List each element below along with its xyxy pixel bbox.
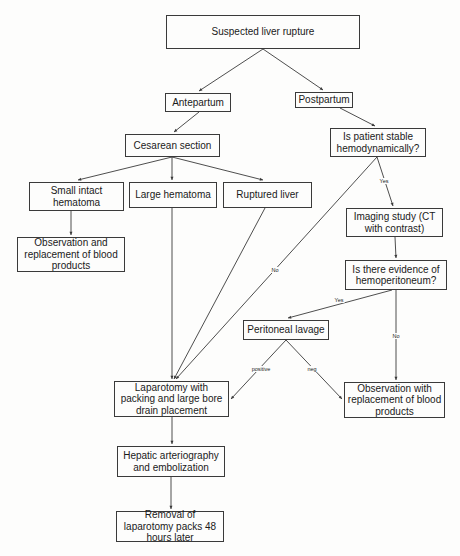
flowchart-canvas: Suspected liver rupture Antepartum Postp… — [0, 0, 460, 556]
node-antepartum: Antepartum — [165, 93, 231, 112]
arrowhead-icon — [69, 232, 72, 235]
node-laparotomy: Laparotomy with packing and large bore d… — [114, 381, 229, 417]
node-removal-packs: Removal of laparotomy packs 48 hours lat… — [116, 511, 224, 542]
edge-label-lavage-neg: neg — [306, 366, 317, 372]
node-cesarean-section: Cesarean section — [125, 134, 220, 157]
node-hepatic-arteriography: Hepatic arteriography and embolization — [117, 446, 225, 477]
node-hemoperitoneum: Is there evidence of hemoperitoneum? — [345, 260, 447, 290]
edge-antepartum-cesarean — [174, 112, 199, 132]
edge-cesarean-ruptured — [172, 157, 263, 180]
edge-label-hemo-no: No — [391, 333, 400, 339]
node-observation-right: Observation with replacement of blood pr… — [344, 382, 445, 418]
edge-imaging-hemo — [395, 237, 396, 258]
node-postpartum: Postpartum — [295, 92, 353, 108]
edge-suspected-postpartum — [263, 49, 323, 90]
arrowhead-icon — [170, 177, 173, 180]
node-ruptured-liver: Ruptured liver — [223, 182, 312, 208]
node-large-hematoma: Large hematoma — [129, 182, 217, 208]
edge-label-lavage-positive: positive — [251, 366, 272, 372]
edge-hemo-lavage — [288, 290, 392, 318]
arrowhead-icon — [394, 377, 397, 380]
edge-ruptured-laparotomy — [174, 208, 265, 379]
node-small-intact-hematoma: Small intact hematoma — [29, 182, 124, 211]
edge-cesarean-small — [78, 157, 172, 180]
arrowhead-icon — [394, 255, 397, 258]
node-is-patient-stable: Is patient stable hemodynamically? — [330, 128, 426, 157]
edge-label-hemo-yes: Yes — [334, 297, 345, 303]
edge-postpartum-stable — [340, 108, 375, 126]
node-imaging-study: Imaging study (CT with contrast) — [346, 208, 443, 237]
node-observation-left: Observation and replacement of blood pro… — [17, 237, 125, 272]
arrowhead-icon — [391, 203, 394, 206]
arrowhead-icon — [170, 376, 173, 379]
node-peritoneal-lavage: Peritoneal lavage — [243, 320, 329, 340]
edge-label-stable-no: No — [270, 267, 279, 273]
edge-label-stable-yes: Yes — [379, 178, 390, 184]
edge-suspected-antepartum — [199, 49, 263, 91]
node-suspected-liver-rupture: Suspected liver rupture — [166, 15, 360, 49]
arrowhead-icon — [170, 441, 173, 444]
